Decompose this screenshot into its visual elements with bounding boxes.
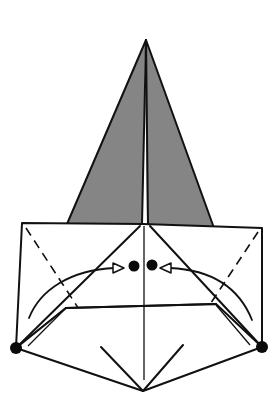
center-right-dot [147, 260, 158, 271]
center-left-dot [129, 261, 140, 272]
top-point-flap [67, 40, 214, 228]
origami-diagram [0, 0, 280, 402]
bottom-left-dot [10, 342, 22, 354]
bottom-right-dot [256, 341, 268, 353]
